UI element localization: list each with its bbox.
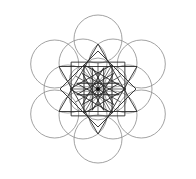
sacred-geometry-diagram <box>0 0 196 179</box>
center-dot <box>96 87 100 91</box>
